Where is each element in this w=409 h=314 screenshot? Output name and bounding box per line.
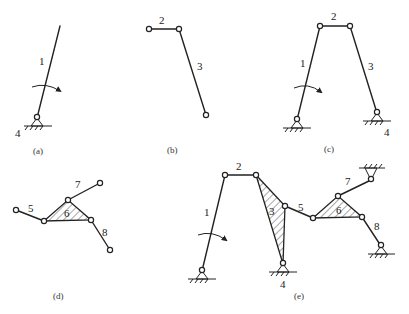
link-1 (37, 26, 60, 118)
rotation-arrow-icon (32, 85, 60, 91)
label-link-3: 3 (269, 205, 275, 217)
panel-d: 5 6 7 8 (d) (13, 178, 112, 301)
joint (203, 112, 208, 117)
label-link-5: 5 (298, 201, 304, 213)
label-link-3: 3 (368, 60, 374, 72)
ground-pivot-icon (368, 242, 395, 258)
caption-c: (c) (324, 144, 334, 154)
caption-b: (b) (167, 145, 178, 155)
label-link-5: 5 (28, 202, 34, 214)
ground-pivot-icon (359, 164, 385, 182)
label-ground-4: 4 (15, 127, 21, 139)
caption-e: (e) (294, 291, 304, 301)
mechanism-diagram: 1 4 (a) 2 3 (b) (0, 0, 409, 314)
label-link-1: 1 (39, 55, 45, 67)
label-link-8: 8 (374, 220, 380, 232)
joint (41, 218, 46, 223)
label-link-1: 1 (204, 206, 210, 218)
label-link-2: 2 (159, 14, 165, 26)
joint (335, 193, 340, 198)
label-link-6: 6 (64, 207, 70, 219)
link-1 (297, 26, 320, 120)
label-link-7: 7 (75, 178, 81, 190)
ground-pivot-icon (363, 109, 391, 125)
panel-c: 2 1 3 4 (c) (283, 10, 391, 154)
joint (359, 214, 364, 219)
joint (13, 207, 18, 212)
ground-pivot-icon (24, 114, 52, 130)
joint (65, 197, 70, 202)
ground-pivot-icon (188, 267, 216, 283)
label-link-2: 2 (236, 160, 242, 172)
label-link-7: 7 (345, 175, 351, 187)
joint (146, 26, 151, 31)
caption-d: (d) (53, 291, 64, 301)
ground-pivot-icon (283, 116, 311, 132)
label-link-3: 3 (197, 60, 203, 72)
link-7 (338, 180, 371, 196)
label-link-8: 8 (102, 226, 108, 238)
label-link-2: 2 (331, 10, 337, 22)
link-7 (68, 183, 100, 200)
joint (222, 172, 227, 177)
rotation-arrow-icon (198, 233, 226, 240)
link-3 (179, 29, 206, 115)
joint (282, 203, 287, 208)
ground-pivot-icon (269, 260, 297, 276)
caption-a: (a) (33, 146, 43, 156)
label-link-6: 6 (336, 204, 342, 216)
panel-b: 2 3 (b) (146, 14, 208, 155)
rotation-arrow-icon (294, 86, 321, 92)
link-3-ternary (256, 175, 285, 264)
joint (176, 26, 181, 31)
joint (310, 215, 315, 220)
joint (253, 172, 258, 177)
label-link-1: 1 (300, 57, 306, 69)
link-1 (202, 175, 225, 271)
panel-e: 2 1 3 4 5 6 7 8 (e) (188, 160, 395, 301)
joint (97, 180, 102, 185)
joint (107, 247, 112, 252)
joint (317, 23, 322, 28)
panel-a: 1 4 (a) (15, 26, 60, 156)
label-ground-4: 4 (384, 126, 390, 138)
joint (88, 217, 93, 222)
joint (347, 23, 352, 28)
label-ground-4: 4 (280, 278, 286, 290)
